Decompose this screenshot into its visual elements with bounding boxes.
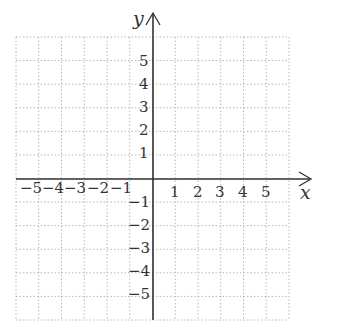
- y-tick-labels: 5 4 3 2 1 −1 −2 −3 −4 −5: [128, 52, 150, 303]
- y-tick-label: −5: [128, 285, 150, 303]
- y-tick-label: 4: [139, 75, 149, 93]
- x-tick-label: 4: [238, 183, 248, 201]
- x-tick-label: 3: [215, 183, 225, 201]
- coordinate-plane: x y −5 −4 −3 −2 −1 1 2 3 4 5 5 4 3 2 1 −…: [0, 0, 340, 330]
- x-tick-label: −4: [42, 179, 64, 197]
- y-tick-label: −1: [128, 193, 150, 211]
- y-tick-label: 5: [139, 52, 149, 70]
- x-axis-label: x: [300, 181, 311, 203]
- x-tick-label: 1: [170, 183, 180, 201]
- y-axis-label: y: [132, 7, 144, 29]
- x-tick-label: −5: [20, 179, 42, 197]
- y-tick-label: −2: [128, 216, 150, 234]
- x-tick-label: −2: [87, 179, 109, 197]
- x-tick-label: 2: [193, 183, 203, 201]
- y-tick-label: −3: [128, 239, 150, 257]
- y-tick-label: 2: [139, 121, 149, 139]
- y-tick-label: −4: [128, 262, 150, 280]
- x-tick-label: −3: [64, 179, 86, 197]
- y-tick-label: 3: [139, 98, 149, 116]
- x-tick-label: 5: [261, 183, 271, 201]
- y-tick-label: 1: [139, 144, 149, 162]
